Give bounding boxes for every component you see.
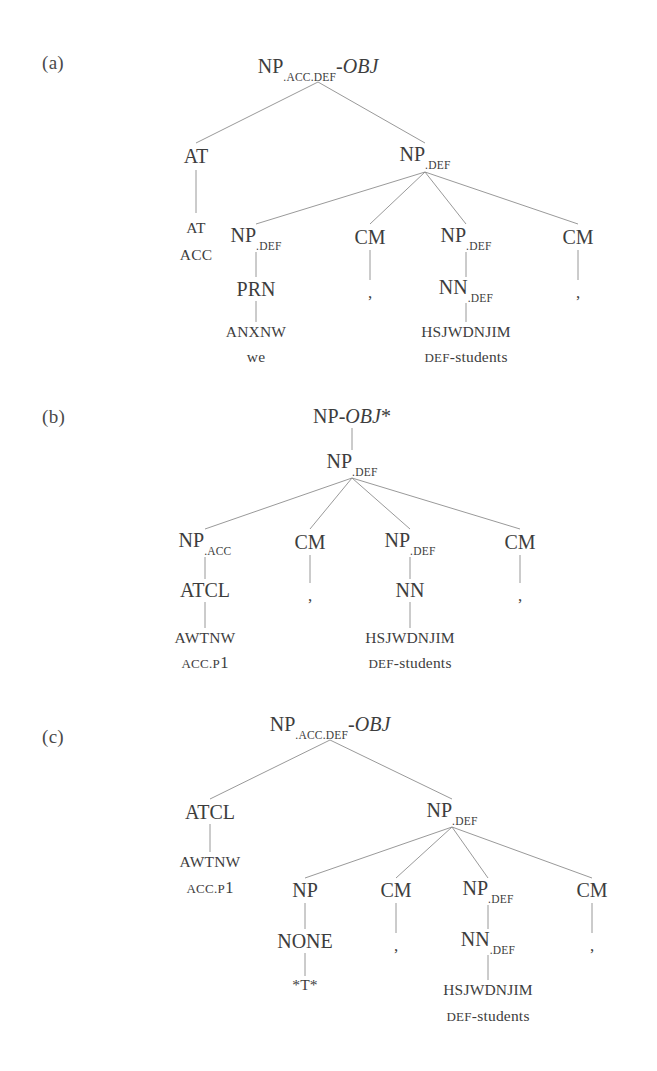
edge-npdef-c1 bbox=[205, 478, 352, 529]
tree-a-node-comma-1: , bbox=[368, 284, 372, 301]
tree-b-node-cm-2: CM bbox=[504, 532, 535, 552]
node-label: NP bbox=[292, 879, 318, 901]
gloss-smallcaps: DEF bbox=[368, 656, 393, 671]
tree-a-node-at-gloss: ACC bbox=[180, 247, 212, 263]
tree-a-node-hsjwdnjim-gloss: DEF-students bbox=[424, 349, 507, 365]
tree-c-node-hsjwdnjim-terminal: HSJWDNJIM bbox=[443, 982, 533, 998]
node-label: , bbox=[518, 586, 522, 605]
edge-npdef-c2 bbox=[396, 827, 452, 878]
node-function-tag: -OBJ bbox=[348, 713, 390, 735]
tree-b-node-nn: NN bbox=[396, 580, 425, 600]
tree-a-node-at-phrase: AT bbox=[184, 146, 208, 166]
node-label: CM bbox=[576, 879, 607, 901]
tree-panel-a: (a) NP.ACC.DEF-OBJATATACCNP.DEFNP.DEFCMN… bbox=[0, 0, 657, 380]
edge-npdef-c1 bbox=[256, 172, 425, 224]
node-label: AWTNW bbox=[175, 629, 236, 646]
tree-b-node-hsjwdnjim-terminal: HSJWDNJIM bbox=[365, 630, 455, 646]
node-label: NP bbox=[463, 877, 489, 899]
node-label: , bbox=[576, 283, 580, 302]
tree-b-node-cm-1: CM bbox=[294, 532, 325, 552]
tree-a-node-comma-2: , bbox=[576, 284, 580, 301]
tree-a-node-np-def-parent: NP.DEF bbox=[400, 144, 451, 169]
gloss-smallcaps: ACC.P bbox=[186, 881, 225, 896]
edge-npdef-c4 bbox=[452, 827, 592, 878]
tree-panel-c: (c) NP.ACC.DEF-OBJATCLAWTNWACC.P1NP.DEFN… bbox=[0, 700, 657, 1071]
tree-b-node-awtnw-gloss: ACC.P1 bbox=[181, 655, 228, 672]
tree-a-node-cm-2: CM bbox=[562, 227, 593, 247]
node-label: NP bbox=[427, 799, 453, 821]
edge-root-at bbox=[196, 82, 318, 143]
tree-c-node-none: NONE bbox=[277, 931, 333, 951]
edge-root-npdef bbox=[330, 740, 452, 799]
tree-b-node-awtnw-terminal: AWTNW bbox=[175, 630, 236, 646]
gloss-smallcaps: DEF bbox=[424, 350, 449, 365]
node-label: NP bbox=[327, 450, 353, 472]
node-label: , bbox=[368, 283, 372, 302]
node-label: ACC bbox=[180, 246, 212, 263]
tree-b-node-comma-2: , bbox=[518, 587, 522, 604]
node-label: , bbox=[590, 936, 594, 955]
node-subscript: .DEF bbox=[256, 240, 281, 252]
edge-root-atcl bbox=[210, 740, 330, 799]
node-label: NP bbox=[385, 529, 411, 551]
tree-a-node-anxnw-gloss: we bbox=[247, 349, 265, 365]
node-subscript: .DEF bbox=[410, 545, 435, 557]
edge-npdef-c3 bbox=[452, 827, 488, 878]
tree-c-node-np-def-parent: NP.DEF bbox=[427, 800, 478, 825]
tree-a-node-prn: PRN bbox=[237, 279, 276, 299]
node-label: , bbox=[308, 586, 312, 605]
node-label: CM bbox=[562, 226, 593, 248]
node-label: CM bbox=[504, 531, 535, 553]
node-label: we bbox=[247, 348, 265, 365]
tree-c-node-root: NP.ACC.DEF-OBJ bbox=[270, 714, 391, 739]
tree-a-node-at-terminal: AT bbox=[186, 220, 205, 236]
tree-a-node-nn-def: NN.DEF bbox=[439, 277, 493, 302]
node-label: NP bbox=[441, 224, 467, 246]
node-label: AT bbox=[184, 145, 208, 167]
edge-npdef-c3 bbox=[425, 172, 466, 224]
tree-b-node-atcl: ATCL bbox=[180, 580, 230, 600]
tree-c-node-np: NP bbox=[292, 880, 318, 900]
node-label: NP bbox=[400, 143, 426, 165]
tree-a-node-root: NP.ACC.DEF-OBJ bbox=[258, 56, 379, 81]
node-label: CM bbox=[294, 531, 325, 553]
node-label: NN bbox=[396, 579, 425, 601]
edge-npdef-c1 bbox=[305, 827, 452, 878]
tree-b-node-np-def-child: NP.DEF bbox=[385, 530, 436, 555]
node-label: NONE bbox=[277, 930, 333, 952]
tree-edges-b bbox=[0, 380, 657, 700]
node-label: , bbox=[394, 936, 398, 955]
tree-a-node-np-def-child: NP.DEF bbox=[231, 225, 282, 250]
node-label: AWTNW bbox=[180, 853, 241, 870]
gloss-digit: 1 bbox=[220, 653, 228, 672]
gloss-smallcaps: ACC.P bbox=[181, 656, 220, 671]
node-subscript: .DEF bbox=[488, 893, 513, 905]
node-subscript: .DEF bbox=[466, 240, 491, 252]
node-label: HSJWDNJIM bbox=[443, 981, 533, 998]
node-function-tag: -OBJ bbox=[336, 55, 378, 77]
edge-npdef-c2 bbox=[370, 172, 425, 224]
node-trace-marker: * bbox=[381, 405, 391, 427]
node-label: CM bbox=[354, 226, 385, 248]
tree-b-node-np-def-parent: NP.DEF bbox=[327, 451, 378, 476]
tree-c-node-trace: *T* bbox=[292, 977, 318, 993]
tree-c-node-comma-1: , bbox=[394, 937, 398, 954]
node-subscript: .DEF bbox=[452, 815, 477, 827]
node-label: ATCL bbox=[185, 801, 235, 823]
tree-c-node-cm-2: CM bbox=[576, 880, 607, 900]
tree-b-node-hsjwdnjim-gloss: DEF-students bbox=[368, 655, 451, 671]
node-subscript: .DEF bbox=[468, 292, 493, 304]
node-function-tag: OBJ bbox=[345, 405, 381, 427]
tree-c-node-nn-def: NN.DEF bbox=[461, 929, 515, 954]
tree-c-node-atcl: ATCL bbox=[185, 802, 235, 822]
node-subscript: .ACC.DEF bbox=[295, 729, 348, 741]
tree-c-node-comma-2: , bbox=[590, 937, 594, 954]
edge-root-npdef bbox=[318, 82, 425, 143]
node-subscript: .DEF bbox=[490, 944, 515, 956]
syntax-tree-figure: (a) NP.ACC.DEF-OBJATATACCNP.DEFNP.DEFCMN… bbox=[0, 0, 657, 1071]
tree-c-node-hsjwdnjim-gloss: DEF-students bbox=[446, 1008, 529, 1024]
node-label: NP bbox=[179, 529, 205, 551]
tree-edges-c bbox=[0, 700, 657, 1071]
node-label: NP bbox=[231, 224, 257, 246]
tree-a-node-cm-1: CM bbox=[354, 227, 385, 247]
